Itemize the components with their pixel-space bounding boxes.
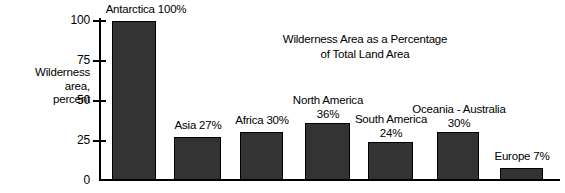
chart-title: Wilderness Area as a Percentage of Total… (245, 32, 485, 62)
bar-south-america (368, 142, 413, 180)
chart-title-line-2: of Total Land Area (245, 47, 485, 62)
bar-label-antarctica-line-1: Antarctica 100% (86, 3, 206, 17)
chart-title-line-1: Wilderness Area as a Percentage (245, 32, 485, 47)
bar-label-oceania-australia-line-2: 30% (404, 117, 514, 131)
y-tick-label-75: 75 (50, 54, 90, 66)
wilderness-area-bar-chart: 100 75 50 25 0 Wilderness area, percent … (0, 0, 565, 193)
bar-north-america (305, 123, 350, 180)
y-axis-title: Wilderness area, percent (2, 66, 90, 107)
bar-label-europe: Europe 7% (483, 150, 561, 164)
y-tick-label-25: 25 (50, 134, 90, 146)
y-tick-50 (93, 100, 106, 102)
bar-label-europe-line-1: Europe 7% (483, 150, 561, 164)
y-tick-100 (93, 20, 106, 22)
y-tick-label-100: 100 (50, 14, 90, 26)
bar-africa (240, 132, 283, 180)
y-tick-label-0: 0 (50, 174, 90, 186)
bar-label-antarctica: Antarctica 100% (86, 3, 206, 17)
bar-label-oceania-australia: Oceania - Australia 30% (404, 103, 514, 130)
y-tick-25 (93, 140, 106, 142)
bar-label-north-america-line-1: North America (282, 94, 374, 108)
bar-antarctica (112, 21, 156, 180)
y-tick-75 (93, 60, 106, 62)
bar-label-oceania-australia-line-1: Oceania - Australia (404, 103, 514, 117)
y-axis-title-line-1: Wilderness (2, 66, 90, 80)
y-axis-title-line-3: percent (2, 93, 90, 107)
y-axis-title-line-2: area, (2, 80, 90, 94)
bar-europe (500, 168, 543, 180)
bar-asia (174, 137, 221, 180)
bar-oceania-australia (437, 132, 479, 180)
